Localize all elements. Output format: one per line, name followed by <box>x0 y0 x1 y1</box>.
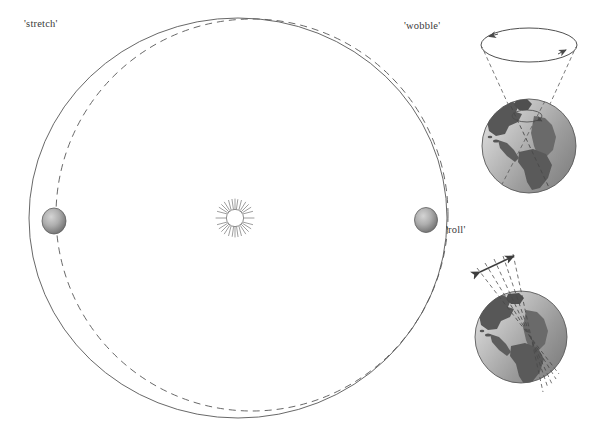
stretch-panel <box>29 18 448 418</box>
planet-aphelion <box>42 208 66 234</box>
label-stretch: 'stretch' <box>24 18 58 29</box>
wobble-panel <box>481 28 577 194</box>
planet-perihelion <box>415 208 438 233</box>
orbit-ellipse-dashed <box>56 19 448 411</box>
milankovitch-cycles-figure <box>0 0 604 437</box>
obliquity-range-arrow <box>480 256 514 272</box>
precession-path-ellipse <box>481 28 577 62</box>
roll-panel <box>475 254 567 392</box>
earth-globe-wobble <box>482 99 576 194</box>
precession-arrow-right <box>558 50 566 54</box>
label-roll: 'roll' <box>446 224 466 235</box>
earth-globe-roll <box>475 254 567 392</box>
sun-icon <box>216 199 254 237</box>
label-wobble: 'wobble' <box>404 20 440 31</box>
